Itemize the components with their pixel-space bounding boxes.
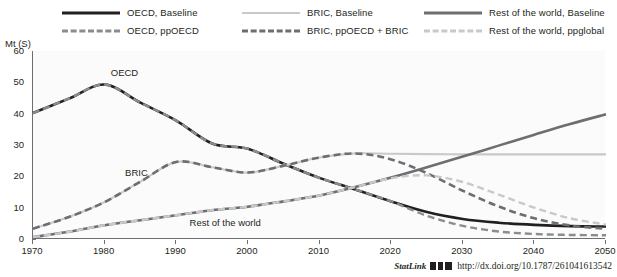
chart-legend: OECD, BaselineOECD, ppOECD BRIC, Baselin… [0, 4, 617, 40]
y-tick-label: 50 [2, 76, 24, 87]
legend-swatch-dashed-line-icon [242, 24, 300, 38]
x-tick-label: 1980 [84, 245, 124, 256]
legend-swatch-dashed-line-icon [424, 24, 482, 38]
legend-item-label: OECD, ppOECD [127, 26, 199, 36]
x-tick-mark [533, 240, 534, 244]
x-tick-mark [175, 240, 176, 244]
chart-annotation: Rest of the world [190, 217, 261, 228]
x-tick-label: 2040 [513, 245, 553, 256]
x-tick-mark [319, 240, 320, 244]
y-tick-label: 10 [2, 202, 24, 213]
statlink-label: StatLink [394, 261, 426, 271]
x-tick-mark [462, 240, 463, 244]
y-tick-label: 40 [2, 108, 24, 119]
legend-column-bric: BRIC, BaselineBRIC, ppOECD + BRIC [242, 4, 408, 40]
x-tick-mark [605, 240, 606, 244]
chart-area: Mt (S) 6050403020100 1970198019902000201… [0, 38, 617, 254]
doi-link[interactable]: http://dx.doi.org/10.1787/261041613542 [457, 261, 612, 271]
legend-swatch-solid-line-icon [62, 6, 120, 20]
x-tick-label: 2020 [370, 245, 410, 256]
y-tick-label: 20 [2, 170, 24, 181]
chart-annotation: BRIC [125, 167, 148, 178]
x-tick-label: 1970 [12, 245, 52, 256]
legend-item-label: OECD, Baseline [127, 8, 198, 18]
legend-item-label: Rest of the world, ppglobal [489, 26, 604, 36]
x-tick-label: 2010 [299, 245, 339, 256]
x-tick-mark [104, 240, 105, 244]
legend-swatch-dashed-line-icon [62, 24, 120, 38]
series-line [33, 153, 606, 228]
legend-item-label: BRIC, ppOECD + BRIC [307, 26, 408, 36]
statlink-barcode-icon [430, 262, 452, 270]
y-tick-label: 0 [2, 233, 24, 244]
series-line [33, 84, 606, 235]
series-lines [33, 51, 606, 239]
y-tick-label: 30 [2, 139, 24, 150]
legend-item-label: BRIC, Baseline [307, 8, 373, 18]
legend-item: OECD, Baseline [62, 4, 199, 22]
x-tick-mark [247, 240, 248, 244]
legend-column-oecd: OECD, BaselineOECD, ppOECD [62, 4, 199, 40]
series-line [33, 114, 606, 237]
legend-swatch-solid-line-icon [242, 6, 300, 20]
legend-item-label: Rest of the world, Baseline [489, 8, 605, 18]
x-tick-mark [32, 240, 33, 244]
legend-item: BRIC, Baseline [242, 4, 408, 22]
legend-column-row: Rest of the world, BaselineRest of the w… [424, 4, 605, 40]
x-tick-label: 2030 [442, 245, 482, 256]
x-tick-mark [390, 240, 391, 244]
y-tick-label: 60 [2, 45, 24, 56]
chart-annotation: OECD [111, 67, 138, 78]
statlink-footer: StatLink http://dx.doi.org/10.1787/26104… [0, 258, 617, 274]
x-tick-label: 2050 [585, 245, 617, 256]
plot-region [32, 51, 605, 239]
x-tick-label: 1990 [155, 245, 195, 256]
series-line [33, 175, 606, 237]
legend-item: Rest of the world, Baseline [424, 4, 605, 22]
series-line [33, 153, 606, 228]
legend-swatch-solid-line-icon [424, 6, 482, 20]
x-tick-label: 2000 [227, 245, 267, 256]
